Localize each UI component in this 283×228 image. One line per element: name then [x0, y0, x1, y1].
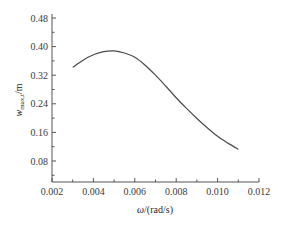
x-tick-label: 0.006	[124, 186, 147, 197]
x-tick-label: 0.008	[165, 186, 188, 197]
y-axis-unit: /m	[13, 83, 24, 94]
y-tick-label: 0.40	[31, 41, 49, 52]
y-tick-label: 0.08	[31, 156, 49, 167]
y-tick-label: 0.16	[31, 127, 49, 138]
x-tick-label: 0.010	[206, 186, 229, 197]
x-tick-label: 0.002	[41, 186, 64, 197]
x-axis-unit: /(rad/s)	[144, 204, 173, 216]
y-tick-label: 0.24	[31, 98, 49, 109]
x-axis-ticks: 0.0020.0040.0060.0080.0100.012	[41, 178, 271, 197]
axes	[52, 14, 259, 182]
y-tick-label: 0.32	[31, 70, 49, 81]
data-line	[73, 51, 239, 149]
y-axis-subscript: max,t	[18, 94, 26, 110]
x-tick-label: 0.004	[82, 186, 105, 197]
y-tick-label: 0.48	[31, 13, 49, 24]
x-axis-symbol: ω	[137, 204, 144, 215]
x-tick-label: 0.012	[248, 186, 271, 197]
x-axis-label: ω/(rad/s)	[137, 204, 173, 216]
chart: 0.080.160.240.320.400.48 0.0020.0040.006…	[0, 0, 283, 228]
y-axis-label: wmax,t/m	[13, 83, 26, 116]
